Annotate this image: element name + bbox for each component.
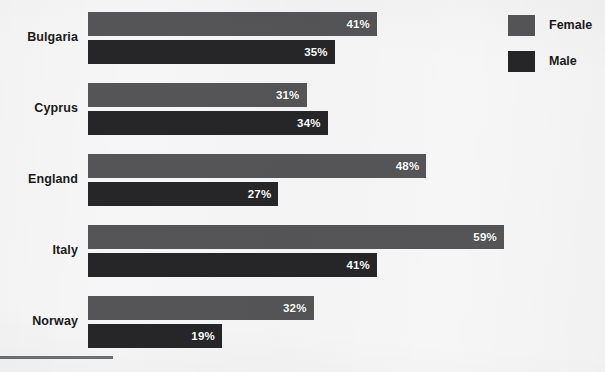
bar-norway-female[interactable]: 32% — [88, 296, 314, 320]
bar-value-label: 32% — [283, 302, 307, 314]
bar-value-label: 19% — [191, 330, 215, 342]
bar-value-label: 48% — [396, 160, 420, 172]
category-label-bulgaria: Bulgaria — [0, 30, 78, 44]
legend-label: Male — [549, 54, 577, 68]
bar-track: 32% — [88, 296, 605, 320]
chart-legend: FemaleMale — [508, 14, 603, 86]
legend-item-male[interactable]: Male — [508, 50, 603, 72]
category-label-england: England — [0, 172, 78, 186]
category-label-norway: Norway — [0, 314, 78, 328]
bar-italy-male[interactable]: 41% — [88, 253, 377, 277]
bar-england-female[interactable]: 48% — [88, 154, 426, 178]
bar-value-label: 31% — [276, 89, 300, 101]
bar-track: 59% — [88, 225, 605, 249]
bar-value-label: 41% — [346, 259, 370, 271]
bar-track: 34% — [88, 111, 605, 135]
bar-cyprus-female[interactable]: 31% — [88, 83, 307, 107]
legend-swatch-male — [508, 51, 535, 72]
bar-norway-male[interactable]: 19% — [88, 324, 222, 348]
bar-group: Norway32%19% — [0, 296, 605, 348]
category-label-italy: Italy — [0, 243, 78, 257]
legend-item-female[interactable]: Female — [508, 14, 603, 36]
bar-value-label: 41% — [346, 18, 370, 30]
bar-italy-female[interactable]: 59% — [88, 225, 504, 249]
bar-track: 41% — [88, 253, 605, 277]
bar-group: England48%27% — [0, 154, 605, 206]
bar-value-label: 35% — [304, 46, 328, 58]
bar-cyprus-male[interactable]: 34% — [88, 111, 328, 135]
bar-value-label: 34% — [297, 117, 321, 129]
bar-group: Italy59%41% — [0, 225, 605, 277]
bar-track: 27% — [88, 182, 605, 206]
bar-value-label: 59% — [473, 231, 497, 243]
bar-value-label: 27% — [248, 188, 272, 200]
legend-label: Female — [549, 18, 592, 32]
legend-swatch-female — [508, 15, 535, 36]
bottom-rule — [0, 356, 113, 359]
bar-track: 31% — [88, 83, 605, 107]
bar-group: Cyprus31%34% — [0, 83, 605, 135]
bar-track: 48% — [88, 154, 605, 178]
category-label-cyprus: Cyprus — [0, 101, 78, 115]
bar-chart: Bulgaria41%35%Cyprus31%34%England48%27%I… — [0, 0, 605, 372]
bar-bulgaria-female[interactable]: 41% — [88, 12, 377, 36]
bar-england-male[interactable]: 27% — [88, 182, 278, 206]
bar-bulgaria-male[interactable]: 35% — [88, 40, 335, 64]
bar-track: 19% — [88, 324, 605, 348]
